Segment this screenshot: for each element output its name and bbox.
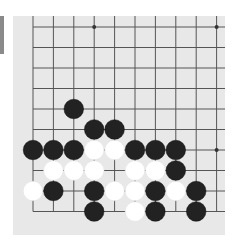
black-stone[interactable] <box>146 202 166 222</box>
black-stone[interactable] <box>186 181 206 201</box>
white-stone[interactable] <box>125 202 145 222</box>
go-board[interactable] <box>13 16 225 235</box>
star-point <box>215 25 219 29</box>
black-stone[interactable] <box>125 140 145 160</box>
white-stone[interactable] <box>125 181 145 201</box>
white-stone[interactable] <box>23 181 43 201</box>
black-stone[interactable] <box>64 99 84 119</box>
black-stone[interactable] <box>64 140 84 160</box>
white-stone[interactable] <box>44 161 64 181</box>
black-stone[interactable] <box>84 181 104 201</box>
white-stone[interactable] <box>64 161 84 181</box>
black-stone[interactable] <box>84 202 104 222</box>
black-stone[interactable] <box>84 120 104 140</box>
side-marker-bar <box>0 16 4 54</box>
black-stone[interactable] <box>166 161 186 181</box>
white-stone[interactable] <box>84 140 104 160</box>
black-stone[interactable] <box>186 202 206 222</box>
black-stone[interactable] <box>44 181 64 201</box>
white-stone[interactable] <box>84 161 104 181</box>
star-point <box>215 148 219 152</box>
black-stone[interactable] <box>23 140 43 160</box>
star-point <box>92 25 96 29</box>
black-stone[interactable] <box>146 181 166 201</box>
white-stone[interactable] <box>146 161 166 181</box>
black-stone[interactable] <box>146 140 166 160</box>
go-board-grid[interactable] <box>13 16 225 235</box>
white-stone[interactable] <box>125 161 145 181</box>
black-stone[interactable] <box>105 120 125 140</box>
white-stone[interactable] <box>166 181 186 201</box>
black-stone[interactable] <box>44 140 64 160</box>
white-stone[interactable] <box>105 181 125 201</box>
black-stone[interactable] <box>166 140 186 160</box>
white-stone[interactable] <box>105 140 125 160</box>
